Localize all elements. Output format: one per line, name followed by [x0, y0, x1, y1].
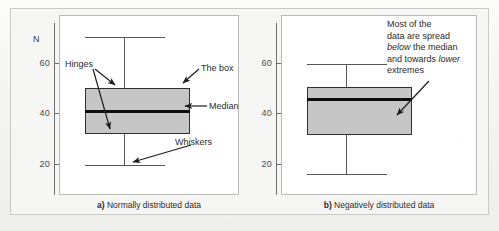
panel-b-ticklabel-40: 40	[249, 108, 272, 118]
panel-b-lower-whisker-cap	[307, 174, 387, 175]
panel-a-ticklabel-40: 40	[27, 108, 50, 118]
panel-a-caption-prefix: a)	[97, 200, 105, 210]
panel-a-annotation-the-box: The box	[201, 63, 234, 75]
panel-b-annotation-line-5: extremes	[387, 65, 424, 75]
figure-frame: N 60 40 20 Hinges	[10, 8, 489, 215]
panel-a-ticklabel-60: 60	[27, 58, 50, 68]
panel-b-upper-whisker-stem	[346, 64, 347, 88]
panel-a-upper-whisker-cap	[85, 37, 165, 38]
panel-b-ticklabel-60: 60	[249, 58, 272, 68]
panel-a-lower-whisker-cap	[85, 165, 165, 166]
panel-a-axis-title: N	[33, 34, 40, 44]
panel-b-caption-text: Negatively distributed data	[334, 200, 434, 210]
panel-a-annotation-whiskers: Whiskers	[175, 137, 212, 149]
panel-b-annotation-line-4-italic: lower	[439, 54, 461, 64]
panel-a-lower-whisker-stem	[124, 134, 125, 165]
panel-b-caption-prefix: b)	[324, 200, 332, 210]
panel-b-ticklabel-20: 20	[249, 159, 272, 169]
panel-b-annotation-line-1: Most of the	[387, 19, 432, 29]
panel-a-caption-text: Normally distributed data	[107, 200, 201, 210]
panel-negatively-distributed: 60 40 20 Most of the data are spread bel…	[249, 9, 488, 216]
panel-a-ticklabel-20: 20	[27, 159, 50, 169]
panel-a-y-axis	[54, 23, 55, 195]
panel-a-median-line	[85, 110, 190, 113]
panel-b-annotation-line-4-pre: and towards	[387, 54, 439, 64]
panel-b-upper-whisker-cap	[307, 64, 387, 65]
panel-a-annotation-hinges: Hinges	[65, 59, 93, 71]
panel-b-annotation-line-3-rest: the median	[411, 42, 458, 52]
panel-b-annotation: Most of the data are spread below the me…	[387, 19, 483, 77]
panel-b-median-line	[307, 98, 412, 101]
boxplot-figure: N 60 40 20 Hinges	[0, 0, 499, 231]
panel-b-annotation-line-2: data are spread	[387, 31, 450, 41]
panel-a-annotation-median: Median	[209, 101, 239, 113]
panel-b-lower-whisker-stem	[346, 135, 347, 174]
panel-a-upper-whisker-stem	[124, 37, 125, 88]
panel-a-caption: a) Normally distributed data	[59, 200, 239, 210]
panel-b-annotation-line-3-italic: below	[387, 42, 411, 52]
panel-b-box	[307, 87, 412, 135]
panel-b-y-axis	[276, 23, 277, 195]
panel-b-caption: b) Negatively distributed data	[281, 200, 477, 210]
panel-normally-distributed: N 60 40 20 Hinges	[11, 9, 243, 216]
